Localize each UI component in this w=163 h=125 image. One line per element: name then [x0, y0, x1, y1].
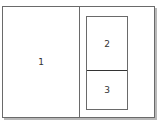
- pane-3: 3: [87, 71, 127, 109]
- pane-1: 1: [3, 7, 79, 117]
- pane-1-label: 1: [38, 57, 44, 67]
- layout-frame: 1 2 3: [2, 6, 155, 118]
- pane-2-label: 2: [104, 39, 110, 49]
- pane-3-label: 3: [104, 85, 110, 95]
- pane-2: 2: [87, 17, 127, 71]
- vertical-divider: [79, 7, 80, 117]
- right-stack: 2 3: [86, 16, 128, 110]
